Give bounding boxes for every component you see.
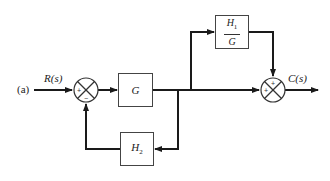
feedback-block-h2: H2 [120,132,154,166]
forward-block-label: G [132,84,140,96]
sum2-plus-top: + [271,80,275,87]
fraction: H1 G [224,17,240,47]
part-label: (a) [17,83,29,95]
feedback-block-label: H2 [131,141,142,156]
fraction-numerator: H1 [227,17,238,33]
block-diagram-wires: + − + + [0,0,330,181]
forward-block-g: G [118,73,153,107]
sum1-minus-sign: − [84,95,88,102]
input-label: R(s) [44,72,62,84]
sum1-plus-sign: + [77,87,81,94]
output-label: C(s) [288,72,307,84]
sum2-plus-left: + [264,87,268,94]
fraction-denominator: G [228,36,235,47]
fraction-bar [224,34,240,35]
feedforward-block-h1-over-g: H1 G [215,15,249,49]
